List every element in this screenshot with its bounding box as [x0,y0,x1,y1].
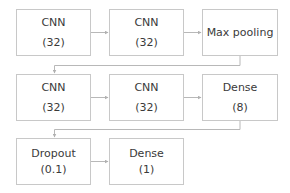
node-dense-8: Dense (8) [202,74,278,121]
node-label: Dense [223,82,258,93]
node-cnn-1: CNN (32) [16,9,91,56]
node-param: (32) [135,37,158,48]
node-param: (0.1) [40,164,66,175]
node-param: (32) [135,102,158,113]
node-cnn-2: CNN (32) [109,9,184,56]
node-param: (8) [232,102,248,113]
arrow-dense8-to-dropout [55,121,241,137]
node-param: (32) [42,102,65,113]
arrow-maxpool-to-cnn3 [55,56,241,73]
node-label: CNN [134,82,158,93]
node-label: Max pooling [207,27,274,38]
node-cnn-3: CNN (32) [16,74,91,121]
node-param: (32) [42,37,65,48]
node-cnn-4: CNN (32) [109,74,184,121]
node-label: Dropout [31,148,75,159]
node-max-pooling: Max pooling [202,9,278,56]
node-param: (1) [139,164,155,175]
node-label: CNN [41,82,65,93]
node-label: CNN [134,17,158,28]
node-label: CNN [41,17,65,28]
node-dense-1: Dense (1) [109,138,184,185]
node-dropout: Dropout (0.1) [16,138,91,185]
node-label: Dense [129,148,164,159]
